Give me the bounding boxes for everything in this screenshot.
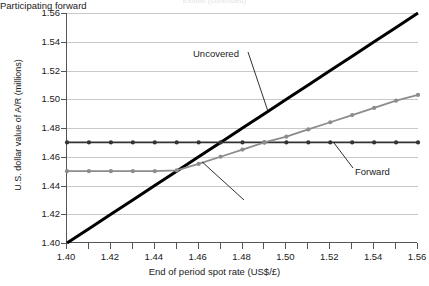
series-uncovered [67, 13, 418, 243]
x-tick-label: 1.54 [353, 251, 393, 262]
x-tick-label: 1.56 [397, 251, 429, 262]
y-tick-label: 1.40 [24, 237, 60, 248]
x-tick-mark [110, 243, 111, 249]
y-tick-mark [61, 99, 66, 100]
series-line [67, 95, 418, 171]
x-tick-mark [242, 243, 243, 249]
plot-area [66, 13, 417, 243]
data-series-layer [67, 13, 418, 243]
data-point-marker [153, 140, 157, 144]
x-tick-label: 1.40 [46, 251, 86, 262]
y-tick-label: 1.48 [24, 122, 60, 133]
data-point-marker [372, 140, 376, 144]
data-point-marker [240, 140, 244, 144]
y-tick-label: 1.46 [24, 151, 60, 162]
data-point-marker [306, 140, 310, 144]
data-point-marker [394, 140, 398, 144]
y-tick-mark [61, 128, 66, 129]
data-point-marker [109, 140, 113, 144]
data-point-marker [197, 140, 201, 144]
x-tick-mark [395, 243, 396, 249]
data-point-marker [328, 140, 332, 144]
data-point-marker [350, 113, 354, 117]
data-point-marker [131, 169, 135, 173]
data-point-marker [131, 140, 135, 144]
x-tick-mark [373, 243, 374, 249]
data-point-marker [262, 140, 266, 144]
data-point-marker [306, 127, 310, 131]
x-tick-label: 1.52 [309, 251, 349, 262]
x-tick-mark [198, 243, 199, 249]
x-axis-title: End of period spot rate (US$/£) [0, 266, 429, 277]
x-tick-mark [329, 243, 330, 249]
x-tick-mark [263, 243, 264, 249]
data-point-marker [372, 106, 376, 110]
x-tick-mark [176, 243, 177, 249]
x-tick-mark [285, 243, 286, 249]
y-tick-mark [61, 13, 66, 14]
data-point-marker [328, 120, 332, 124]
data-point-marker [65, 169, 69, 173]
x-tick-mark [154, 243, 155, 249]
annotation-participating-forward: Participating forward [0, 0, 87, 11]
x-tick-label: 1.50 [265, 251, 305, 262]
y-tick-label: 1.52 [24, 65, 60, 76]
y-tick-mark [61, 214, 66, 215]
y-tick-mark [61, 42, 66, 43]
x-tick-mark [132, 243, 133, 249]
annotation-forward: Forward [355, 166, 390, 177]
data-point-marker [240, 147, 244, 151]
x-tick-mark [351, 243, 352, 249]
data-point-marker [87, 140, 91, 144]
data-point-marker [175, 140, 179, 144]
y-tick-label: 1.50 [24, 93, 60, 104]
data-point-marker [416, 93, 420, 97]
y-axis-title: U.S. dollar value of A/R (millions) [13, 19, 23, 231]
data-point-marker [197, 162, 201, 166]
data-point-marker [350, 140, 354, 144]
data-point-marker [284, 135, 288, 139]
data-point-marker [153, 169, 157, 173]
series-forward [65, 140, 420, 144]
chart-figure: Exhibit (continued) U.S. dollar value of… [0, 0, 429, 286]
y-tick-label: 1.42 [24, 208, 60, 219]
y-tick-mark [61, 157, 66, 158]
x-tick-label: 1.44 [134, 251, 174, 262]
data-point-marker [218, 155, 222, 159]
y-tick-label: 1.54 [24, 36, 60, 47]
data-point-marker [175, 168, 179, 172]
annotation-uncovered: Uncovered [193, 48, 239, 59]
x-tick-mark [88, 243, 89, 249]
x-tick-mark [307, 243, 308, 249]
y-tick-label: 1.44 [24, 180, 60, 191]
x-tick-mark [220, 243, 221, 249]
y-tick-mark [61, 71, 66, 72]
series-line [67, 13, 418, 243]
x-tick-mark [417, 243, 418, 249]
series-participating-forward [65, 93, 420, 173]
x-tick-label: 1.42 [90, 251, 130, 262]
data-point-marker [87, 169, 91, 173]
data-point-marker [109, 169, 113, 173]
data-point-marker [65, 140, 69, 144]
data-point-marker [284, 140, 288, 144]
x-tick-label: 1.48 [222, 251, 262, 262]
x-tick-label: 1.46 [178, 251, 218, 262]
data-point-marker [394, 99, 398, 103]
data-point-marker [218, 140, 222, 144]
data-point-marker [416, 140, 420, 144]
y-tick-mark [61, 186, 66, 187]
x-tick-mark [66, 243, 67, 249]
